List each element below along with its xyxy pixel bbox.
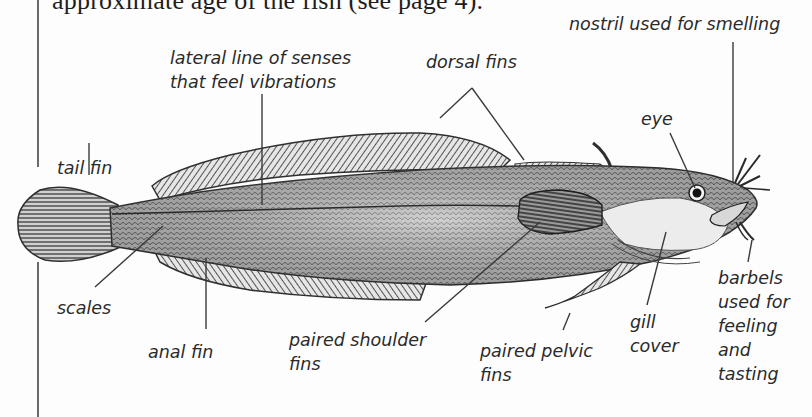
diagram-page: approximate age of the fish (see page 4)… [0,0,812,417]
label-lateral-line: lateral line of senses that feel vibrati… [170,46,351,94]
label-paired-pelvic-fins: paired pelvic fins [480,339,593,387]
label-eye: eye [641,107,673,131]
label-scales: scales [57,296,111,320]
label-tail-fin: tail fin [57,156,112,180]
label-gill-cover: gill cover [630,310,679,358]
label-paired-shoulder-fins: paired shoulder fins [289,328,426,376]
label-dorsal-fins: dorsal fins [426,50,517,74]
label-anal-fin: anal fin [148,340,213,364]
label-barbels: barbels used for feeling and tasting [718,266,790,386]
label-nostril: nostril used for smelling [569,12,780,36]
pectoral-fin [518,190,602,234]
tail-fin [18,187,125,261]
